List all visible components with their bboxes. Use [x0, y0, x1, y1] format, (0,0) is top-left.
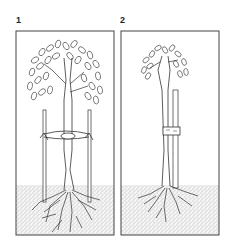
- panel-1: [16, 31, 114, 235]
- stake-left: [43, 110, 46, 202]
- soil-area: [121, 185, 219, 235]
- stake: [173, 90, 178, 188]
- tree-canopy: [141, 44, 189, 80]
- tree-trunk: [158, 56, 170, 186]
- tree-trunk: [64, 58, 74, 190]
- band-tie: [163, 127, 180, 135]
- panel-2: [121, 31, 219, 235]
- staking-diagram: [0, 0, 236, 247]
- stake-right: [88, 110, 91, 202]
